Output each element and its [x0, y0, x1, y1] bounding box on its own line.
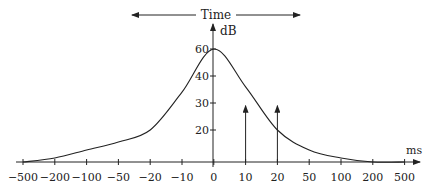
- x-tick-label: −100: [71, 171, 101, 184]
- y-tick-label: 30: [195, 97, 209, 110]
- x-tick-label: −500: [8, 171, 38, 184]
- y-tick-label: 40: [195, 70, 209, 83]
- x-tick-label: 500: [394, 171, 415, 184]
- x-tick-label: −20: [139, 171, 162, 184]
- x-axis-label: ms: [406, 144, 422, 157]
- y-axis-label: dB: [220, 24, 237, 38]
- y-tick-label: 20: [195, 124, 209, 137]
- x-tick-label: −50: [107, 171, 130, 184]
- x-tick-label: 100: [331, 171, 352, 184]
- series-line-level: [23, 49, 405, 162]
- x-tick-label: 0: [210, 171, 217, 184]
- x-tick-label: 200: [362, 171, 383, 184]
- time-label: Time: [201, 8, 231, 22]
- x-tick-label: 10: [239, 171, 253, 184]
- x-tick-label: 20: [270, 171, 284, 184]
- time-annotation: Time: [132, 8, 300, 22]
- x-tick-label: −200: [40, 171, 70, 184]
- x-tick-label: 50: [302, 171, 316, 184]
- x-tick-label: −10: [170, 171, 193, 184]
- y-tick-label: 60: [195, 43, 209, 56]
- chart: Time dB ms −500−200−100−50−20−1001020501…: [0, 0, 429, 189]
